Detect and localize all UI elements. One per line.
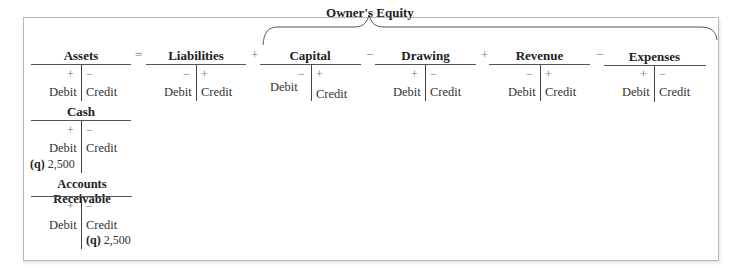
entry-ref: (q) <box>86 233 101 247</box>
decrease-sign: − <box>86 67 93 82</box>
t-divider <box>540 65 541 101</box>
debit-label: Debit <box>49 85 77 100</box>
entry-amount: 2,500 <box>48 157 75 171</box>
t-divider <box>311 65 312 101</box>
credit-label: Credit <box>201 85 232 100</box>
t-rule <box>604 65 706 66</box>
equals-operator: = <box>135 47 142 63</box>
increase-sign: + <box>67 123 74 138</box>
decrease-sign: − <box>183 67 190 82</box>
entry-amount: 2,500 <box>104 233 131 247</box>
increase-sign: + <box>201 67 208 82</box>
t-divider <box>81 65 82 101</box>
account-title: Drawing <box>375 48 476 64</box>
minus-operator: − <box>366 47 373 63</box>
credit-label: Credit <box>316 87 347 102</box>
credit-label: Credit <box>86 218 117 233</box>
increase-sign: + <box>411 67 418 82</box>
owners-equity-label: Owner's Equity <box>300 5 440 21</box>
credit-label: Credit <box>659 85 690 100</box>
account-title: Accounts Receivable <box>29 177 135 207</box>
account-title: Cash <box>31 104 131 120</box>
debit-label: Debit <box>49 141 77 156</box>
debit-label: Debit <box>622 85 650 100</box>
increase-sign: + <box>640 67 647 82</box>
debit-label: Debit <box>270 80 298 95</box>
account-title: Liabilities <box>146 48 246 64</box>
decrease-sign: − <box>430 67 437 82</box>
decrease-sign: − <box>298 67 305 82</box>
debit-label: Debit <box>508 85 536 100</box>
debit-label: Debit <box>164 85 192 100</box>
t-divider <box>425 65 426 101</box>
account-title: Assets <box>31 48 131 64</box>
credit-label: Credit <box>86 85 117 100</box>
t-divider <box>654 66 655 102</box>
decrease-sign: − <box>526 67 533 82</box>
increase-sign: + <box>67 199 74 214</box>
plus-operator: + <box>481 47 488 63</box>
credit-label: Credit <box>430 85 461 100</box>
minus-operator: − <box>596 47 603 63</box>
decrease-sign: − <box>659 67 666 82</box>
account-title: Expenses <box>604 49 705 65</box>
debit-label: Debit <box>393 85 421 100</box>
t-divider <box>196 65 197 101</box>
increase-sign: + <box>545 67 552 82</box>
credit-entry: (q) 2,500 <box>86 233 131 248</box>
credit-label: Credit <box>545 85 576 100</box>
account-title: Capital <box>260 48 360 64</box>
decrease-sign: − <box>86 199 93 214</box>
t-divider <box>81 197 82 249</box>
credit-label: Credit <box>86 141 117 156</box>
debit-label: Debit <box>49 218 77 233</box>
decrease-sign: − <box>86 123 93 138</box>
account-title: Revenue <box>489 48 590 64</box>
plus-operator: + <box>251 47 258 63</box>
t-divider <box>81 121 82 173</box>
debit-entry: (q) 2,500 <box>30 157 75 172</box>
increase-sign: + <box>316 67 323 82</box>
increase-sign: + <box>67 67 74 82</box>
entry-ref: (q) <box>30 157 45 171</box>
